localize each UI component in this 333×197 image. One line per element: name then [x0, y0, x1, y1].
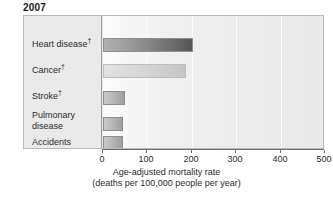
bar-pulmonary-disease [103, 117, 123, 131]
x-axis-caption-line2: (deaths per 100,000 people per year) [0, 178, 333, 189]
x-tick-label-200: 200 [183, 154, 198, 164]
plot-area [103, 16, 323, 148]
x-tick-mark-200 [191, 150, 192, 153]
x-tick-mark-300 [235, 150, 236, 153]
x-tick-label-400: 400 [272, 154, 287, 164]
category-label-pulmonary-disease: Pulmonarydisease [32, 110, 94, 131]
dagger-icon: † [58, 89, 62, 96]
chart-title: 2007 [23, 2, 46, 13]
x-axis-caption-line1: Age-adjusted mortality rate [0, 167, 333, 178]
mortality-bar-chart: 2007 Heart disease† Cancer† Stroke† Pulm… [0, 0, 333, 197]
category-label-cancer: Cancer† [32, 65, 94, 76]
x-tick-mark-0 [102, 150, 103, 153]
bar-accidents [103, 136, 123, 149]
x-axis-caption: Age-adjusted mortality rate (deaths per … [0, 167, 333, 189]
chart-plot-frame: Heart disease† Cancer† Stroke† Pulmonary… [23, 15, 324, 149]
dagger-icon: † [61, 63, 65, 70]
gridline-100 [147, 16, 148, 148]
gridline-200 [192, 16, 193, 148]
gridline-300 [236, 16, 237, 148]
x-tick-label-0: 0 [99, 154, 104, 164]
x-tick-label-300: 300 [227, 154, 242, 164]
category-label-accidents: Accidents [32, 137, 94, 148]
x-tick-label-500: 500 [316, 154, 331, 164]
category-label-heart-disease: Heart disease† [32, 39, 94, 50]
category-label-text: Pulmonary [32, 110, 75, 120]
bar-cancer [103, 64, 186, 78]
x-tick-mark-500 [324, 150, 325, 153]
dagger-icon: † [88, 37, 92, 44]
category-label-text: Cancer [32, 65, 61, 75]
category-label-text: Heart disease [32, 39, 88, 49]
category-label-panel: Heart disease† Cancer† Stroke† Pulmonary… [24, 16, 102, 148]
x-axis-line [102, 149, 324, 150]
gridline-400 [281, 16, 282, 148]
x-tick-mark-400 [280, 150, 281, 153]
category-label-text: Accidents [32, 137, 71, 147]
category-label-text-line2: disease [32, 121, 63, 131]
category-label-stroke: Stroke† [32, 91, 94, 102]
category-label-text: Stroke [32, 91, 58, 101]
x-tick-mark-100 [146, 150, 147, 153]
bar-stroke [103, 91, 125, 105]
x-tick-label-100: 100 [138, 154, 153, 164]
bar-heart-disease [103, 38, 193, 52]
